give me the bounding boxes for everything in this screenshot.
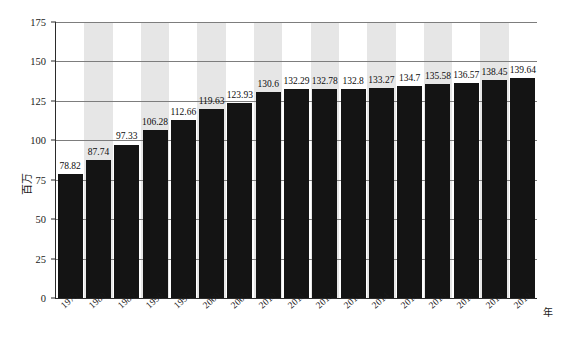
x-tick-label: 2012 <box>314 290 335 310</box>
x-tick-label: 2013 <box>342 290 363 310</box>
x-tick-label: 2000 <box>201 290 222 310</box>
x-tick-label: 2019 <box>512 290 533 310</box>
x-axis-ticks: 1975198019851990199520002005201020112012… <box>0 0 564 338</box>
x-tick-label: 2015 <box>399 290 420 310</box>
x-tick-label: 2018 <box>484 290 505 310</box>
x-tick-label: 2010 <box>257 290 278 310</box>
x-tick-label: 2011 <box>286 291 307 311</box>
x-tick-label: 2017 <box>455 290 476 310</box>
x-tick-label: 1980 <box>87 290 108 310</box>
x-axis-unit-label: 年 <box>543 304 553 319</box>
x-tick-label: 2005 <box>229 290 250 310</box>
x-tick-label: 2014 <box>370 290 391 310</box>
x-tick-label: 1975 <box>59 290 80 310</box>
x-tick-label: 1995 <box>172 290 193 310</box>
x-tick-label: 2016 <box>427 290 448 310</box>
bar-chart: 百万 0255075100125150175 78.8287.7497.3310… <box>0 0 564 338</box>
x-tick-label: 1990 <box>144 290 165 310</box>
x-tick-label: 1985 <box>116 290 137 310</box>
